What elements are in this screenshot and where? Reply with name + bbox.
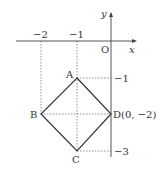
x-axis-label: x xyxy=(129,44,135,55)
y-axis-label: y xyxy=(100,8,107,19)
point-c-label: C xyxy=(72,154,80,165)
point-b-label: B xyxy=(30,109,37,120)
square-abcd xyxy=(41,78,111,151)
tick-x-minus1: −1 xyxy=(69,29,84,40)
x-axis-arrow-icon xyxy=(132,39,137,43)
coordinate-diagram: y x O −2 −1 −1 −3 A B C D(0, −2) xyxy=(0,0,162,174)
tick-y-minus1: −1 xyxy=(114,73,129,84)
origin-label: O xyxy=(101,44,109,55)
point-d-label: D(0, −2) xyxy=(113,109,156,120)
tick-x-minus2: −2 xyxy=(33,29,48,40)
tick-y-minus3: −3 xyxy=(114,146,129,157)
y-axis-arrow-icon xyxy=(109,12,113,17)
guide-lines xyxy=(41,41,111,151)
point-a-label: A xyxy=(65,69,74,80)
